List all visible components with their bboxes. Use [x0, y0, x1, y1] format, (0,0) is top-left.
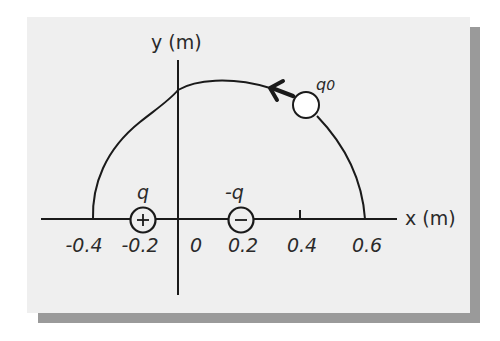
positive-charge [131, 208, 156, 233]
trajectory-path-right [317, 116, 365, 219]
x-axis-label-text: x (m) [405, 207, 456, 229]
y-axis-label-text: y (m) [151, 31, 202, 53]
tick-label-0.2: 0.2 [228, 236, 258, 255]
tick-label-0.4: 0.4 [287, 236, 317, 255]
tick-label-neg0.2: -0.2 [121, 236, 158, 255]
tick-label-0.6: 0.6 [352, 236, 382, 255]
x-axis-label: x (m) [405, 209, 456, 228]
tick-label-0: 0 [190, 236, 202, 255]
positive-charge-label: q [137, 183, 149, 202]
field-diagram [0, 0, 500, 341]
test-charge-circle [293, 92, 319, 118]
negative-charge-label: -q [225, 183, 244, 202]
y-axis-label: y (m) [151, 33, 202, 52]
negative-charge [229, 208, 254, 233]
tick-label-neg0.4: -0.4 [65, 236, 102, 255]
test-charge-label-main: q [316, 75, 326, 94]
test-charge-label-sub: 0 [326, 77, 335, 93]
direction-arrow-icon [270, 81, 293, 100]
test-charge-label: q0 [316, 77, 335, 93]
